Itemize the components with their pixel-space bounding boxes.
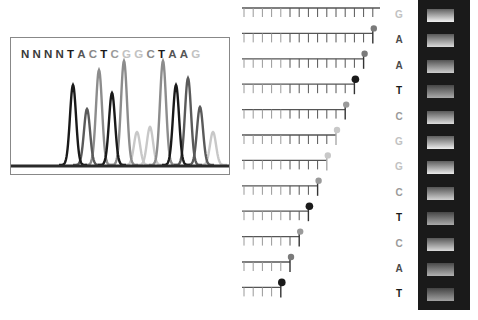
base-label: T	[392, 288, 406, 299]
dna-fragment	[242, 152, 331, 170]
fragment-ladder	[240, 0, 380, 310]
dna-fragment	[242, 228, 303, 246]
chromatogram-trace	[11, 38, 229, 174]
dna-fragment	[242, 0, 380, 18]
gel-band	[427, 9, 454, 22]
terminator-dot	[315, 178, 321, 184]
base-label: C	[392, 111, 406, 122]
gel-band	[427, 161, 454, 174]
gel-band	[427, 263, 454, 276]
base-label: A	[392, 263, 406, 274]
base-label: G	[392, 136, 406, 147]
terminator-dot	[278, 279, 286, 287]
gel-band	[427, 288, 454, 301]
base-label: A	[392, 34, 406, 45]
dna-fragment	[242, 51, 368, 69]
terminator-dot	[334, 127, 340, 133]
dna-fragment	[242, 254, 294, 272]
terminator-dot	[297, 228, 303, 234]
base-label: A	[392, 60, 406, 71]
dna-fragment	[242, 127, 340, 145]
terminator-dot	[343, 101, 349, 107]
dna-fragment	[242, 178, 322, 196]
dna-fragment	[242, 75, 359, 94]
gel-band	[427, 136, 454, 149]
base-label: C	[392, 187, 406, 198]
dna-fragment	[242, 279, 286, 298]
dna-fragment	[242, 101, 349, 119]
terminator-dot	[352, 75, 360, 83]
terminator-dot	[371, 25, 377, 31]
base-label: T	[392, 85, 406, 96]
base-label: T	[392, 212, 406, 223]
base-labels: GAATCGGCTCAT	[392, 0, 406, 310]
terminator-dot	[306, 202, 314, 210]
base-label: G	[392, 9, 406, 20]
terminator-dot	[361, 51, 367, 57]
dna-fragment	[242, 25, 377, 43]
terminator-dot	[325, 152, 331, 158]
chromatogram-panel: NNNNTACTCGGCTAAG	[10, 37, 230, 175]
gel-band	[427, 238, 454, 251]
gel-lane	[418, 0, 470, 310]
gel-band	[427, 60, 454, 73]
terminator-dot	[288, 254, 294, 260]
gel-band	[427, 212, 454, 225]
gel-band	[427, 187, 454, 200]
gel-band	[427, 85, 454, 98]
gel-band	[427, 111, 454, 124]
base-label: C	[392, 238, 406, 249]
dna-fragment	[242, 202, 313, 221]
base-label: G	[392, 161, 406, 172]
gel-band	[427, 34, 454, 47]
